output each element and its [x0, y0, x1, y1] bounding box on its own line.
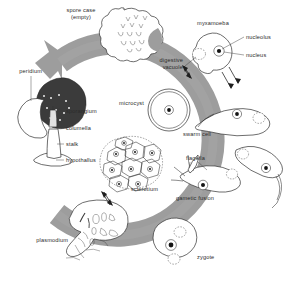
- sclerotium-label: sclerotium: [131, 186, 158, 192]
- columella-label: columella: [66, 125, 92, 131]
- life-cycle-diagram: spore case (empty) myxamoeba nucleolus n…: [0, 0, 284, 287]
- swarm-cell-lower-flagellum-2: [276, 176, 280, 200]
- stalk-label: stalk: [66, 141, 78, 147]
- digestive-vacuole: [193, 49, 206, 60]
- peridium-label: peridium: [19, 68, 42, 74]
- microcyst-label: microcyst: [119, 100, 144, 106]
- plasmodium-group: plasmodium: [36, 200, 128, 260]
- spore-case-label-line1: spore case: [67, 7, 96, 13]
- digestive-vacuole-label-line1: digestive: [160, 57, 183, 63]
- ring-arrow-b-head: [235, 78, 241, 84]
- microcyst-nucleolus: [167, 108, 171, 112]
- digestive-vacuole-label-line2: vacuole: [163, 64, 183, 70]
- nucleolus-label: nucleolus: [246, 34, 271, 40]
- spore-case-label-line2: (empty): [71, 14, 91, 20]
- swarm-cell-upper-vacuole: [253, 113, 265, 124]
- sporangium-group: peridium sporangium columella stalk hypo…: [18, 68, 97, 166]
- swarm-cell-label: swarm cell: [183, 131, 211, 137]
- gametic-fusion-vacuole: [226, 169, 237, 179]
- microcyst-group: microcyst: [119, 89, 190, 131]
- swarm-cell-upper-nucleolus: [235, 112, 239, 116]
- gametic-fusion-nucleolus: [201, 183, 205, 187]
- ring-arrow-a-head: [228, 83, 234, 89]
- zygote-nucleolus: [169, 243, 174, 248]
- zygote-group: zygote: [153, 218, 214, 264]
- life-cycle-figure: spore case (empty) myxamoeba nucleolus n…: [0, 0, 284, 287]
- gametic-fusion-label: gametic fusion: [176, 195, 214, 201]
- sporangium-spore-mass: [36, 78, 86, 129]
- nucleus-label: nucleus: [246, 52, 266, 58]
- flagella-label: flagella: [186, 155, 206, 161]
- stalk-shape: [47, 129, 61, 159]
- plasmodium-label: plasmodium: [36, 237, 68, 243]
- zygote-outline: [153, 218, 197, 257]
- myxamoeba-group: myxamoeba nucleolus nucleus digestive va…: [160, 20, 271, 74]
- cycle-arrowhead: [35, 40, 62, 80]
- swarm-cell-lower-flagellum: [272, 174, 282, 208]
- zygote-label: zygote: [197, 254, 214, 260]
- plasmodium-outline: [66, 200, 128, 257]
- myxamoeba-nucleolus: [217, 49, 221, 53]
- swarm-cell-lower-vacuole: [237, 149, 248, 159]
- hypothallus-label: hypothallus: [66, 157, 96, 163]
- ring-direction-arrows: [222, 67, 241, 89]
- zygote-vacuole-upper: [174, 227, 186, 237]
- zygote-vacuole-lower: [168, 254, 180, 264]
- swarm-cell-lower-nucleolus: [264, 166, 268, 170]
- sclerotium-group: sclerotium: [100, 136, 163, 192]
- sporangium-label: sporangium: [66, 108, 97, 114]
- columella-body: [49, 110, 57, 127]
- myxamoeba-label: myxamoeba: [197, 20, 230, 26]
